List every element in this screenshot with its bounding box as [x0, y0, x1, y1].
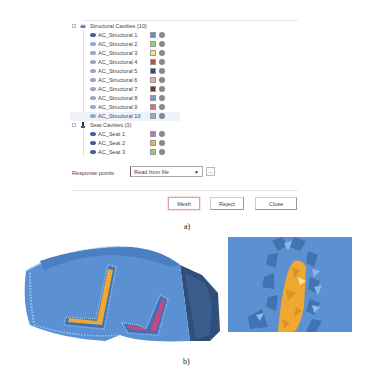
color-swatch[interactable]: [150, 32, 156, 38]
response-points-label: Response points:: [72, 170, 115, 176]
color-swatch[interactable]: [150, 113, 156, 119]
visibility-sphere-icon[interactable]: [159, 86, 165, 92]
tree-item[interactable]: AC_Structural 7: [70, 85, 180, 94]
color-swatch[interactable]: [150, 50, 156, 56]
tree-item[interactable]: AC_Structural 2: [70, 40, 180, 49]
tree-item[interactable]: AC_Structural 4: [70, 58, 180, 67]
tree-item[interactable]: AC_Structural 3: [70, 49, 180, 58]
cavity-item-icon: [90, 87, 96, 91]
close-button[interactable]: Close: [255, 197, 297, 210]
cavity-tree: Structural Cavities (10) AC_Structural 1…: [70, 22, 180, 157]
visibility-sphere-icon[interactable]: [159, 50, 165, 56]
color-swatch[interactable]: [150, 59, 156, 65]
browse-button[interactable]: ...: [206, 167, 215, 176]
tree-item-label: AC_Structural 7: [98, 85, 137, 94]
tree-item-label: AC_Structural 3: [98, 49, 137, 58]
cavity-item-icon: [90, 150, 96, 154]
tree-item[interactable]: AC_Seat 1: [70, 130, 180, 139]
visibility-sphere-icon[interactable]: [159, 131, 165, 137]
color-swatch[interactable]: [150, 41, 156, 47]
tree-item[interactable]: AC_Structural 10: [70, 112, 180, 121]
cavity-item-icon: [90, 114, 96, 118]
tree-group-label: Structural Cavities (10): [90, 22, 147, 31]
tree-item[interactable]: AC_Structural 8: [70, 94, 180, 103]
cavity-mesh-3d-view: [20, 243, 220, 343]
response-points-value: Read from file: [134, 169, 169, 175]
cavity-item-icon: [90, 42, 96, 46]
color-swatch[interactable]: [150, 68, 156, 74]
tree-item[interactable]: AC_Structural 1: [70, 31, 180, 40]
mesh-button[interactable]: Mesh: [168, 197, 200, 210]
dropdown-arrow-icon[interactable]: ▼: [194, 167, 199, 177]
cavity-item-icon: [90, 69, 96, 73]
tree-item-label: AC_Structural 9: [98, 103, 137, 112]
cavity-item-icon: [90, 141, 96, 145]
cavity-item-icon: [90, 78, 96, 82]
cavity-item-icon: [90, 96, 96, 100]
response-points-select[interactable]: Read from file ▼: [130, 166, 203, 177]
color-swatch[interactable]: [150, 86, 156, 92]
tree-item-label: AC_Seat 2: [98, 139, 125, 148]
visibility-sphere-icon[interactable]: [159, 68, 165, 74]
tree-item-label: AC_Structural 5: [98, 67, 137, 76]
visibility-sphere-icon[interactable]: [159, 95, 165, 101]
visibility-sphere-icon[interactable]: [159, 149, 165, 155]
color-swatch[interactable]: [150, 95, 156, 101]
visibility-sphere-icon[interactable]: [159, 41, 165, 47]
visibility-sphere-icon[interactable]: [159, 59, 165, 65]
tree-item-label: AC_Structural 1: [98, 31, 137, 40]
tree-item[interactable]: AC_Structural 6: [70, 76, 180, 85]
color-swatch[interactable]: [150, 131, 156, 137]
seat-cavity-icon: [80, 122, 86, 128]
dialog-divider: [72, 190, 298, 191]
caption-b: b): [183, 357, 190, 366]
color-swatch[interactable]: [150, 140, 156, 146]
cavity-item-icon: [90, 33, 96, 37]
tree-item-label: AC_Structural 2: [98, 40, 137, 49]
tree-item[interactable]: AC_Structural 5: [70, 67, 180, 76]
tree-item-label: AC_Seat 1: [98, 130, 125, 139]
tree-item-label: AC_Structural 4: [98, 58, 137, 67]
color-swatch[interactable]: [150, 104, 156, 110]
tree-item[interactable]: AC_Structural 9: [70, 103, 180, 112]
visibility-sphere-icon[interactable]: [159, 104, 165, 110]
tree-item-label: AC_Structural 6: [98, 76, 137, 85]
dialog-top-divider: [82, 20, 298, 21]
reject-button[interactable]: Reject: [210, 197, 244, 210]
tree-group-seat-cavities[interactable]: Seat Cavities (3): [70, 121, 180, 130]
tree-item-label: AC_Seat 3: [98, 148, 125, 157]
visibility-sphere-icon[interactable]: [159, 32, 165, 38]
tree-item[interactable]: AC_Seat 2: [70, 139, 180, 148]
color-swatch[interactable]: [150, 149, 156, 155]
tree-group-label: Seat Cavities (3): [90, 121, 131, 130]
cavity-item-icon: [90, 105, 96, 109]
tree-item-label: AC_Structural 10: [98, 112, 141, 121]
collapse-toggle-icon[interactable]: [72, 123, 76, 127]
tree-group-structural-cavities[interactable]: Structural Cavities (10): [70, 22, 180, 31]
tree-item-label: AC_Structural 8: [98, 94, 137, 103]
structural-cavity-icon: [80, 23, 86, 29]
cavity-item-icon: [90, 60, 96, 64]
collapse-toggle-icon[interactable]: [72, 24, 76, 28]
cavity-item-icon: [90, 51, 96, 55]
visibility-sphere-icon[interactable]: [159, 77, 165, 83]
tree-item[interactable]: AC_Seat 3: [70, 148, 180, 157]
cavity-item-icon: [90, 132, 96, 136]
color-swatch[interactable]: [150, 77, 156, 83]
caption-a: a): [184, 222, 190, 231]
visibility-sphere-icon[interactable]: [159, 113, 165, 119]
visibility-sphere-icon[interactable]: [159, 140, 165, 146]
mesh-detail-zoom-view: [228, 237, 352, 332]
